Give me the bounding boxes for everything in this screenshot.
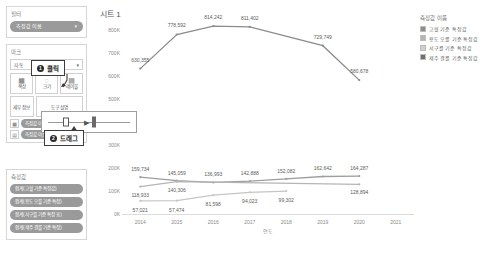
x-axis-title: 연도 [263,227,273,234]
x-axis-tick: 2016 [208,219,219,225]
data-label: 140,306 [168,187,186,193]
data-label: 162,642 [314,165,332,171]
legend-swatch [420,45,426,51]
tableau-worksheet: 필터 측정값 이름 ▾ 마크 자동 ▾ ▦ 색상 ◌ 크기 [0,0,504,277]
size-slider-track[interactable]: ▶ [48,122,130,123]
path-icon: ▤ [10,130,19,139]
size-slider-max-marker [92,117,96,128]
callout-number: 1 [37,65,44,72]
data-point [358,79,360,81]
legend-label: 고혈 기준 특정값 [429,25,467,32]
filter-pill-measure-names[interactable]: 측정값 이름 ▾ [10,21,83,32]
measure-pill[interactable]: 합계(고혈 기준 특정값) [10,184,83,194]
marks-color-button[interactable]: ▦ 색상 [10,73,33,94]
legend: 측정값 이름 고혈 기준 특정값 용도 오를 기준 특정값 서구를 기준 특정값… [420,14,500,63]
marks-detail-button[interactable]: 세부 정보 [10,96,34,117]
data-point [285,178,287,180]
plot-canvas: 630,355778,592814,242811,402729,749580,6… [122,18,414,214]
measure-pill[interactable]: 합계(서구를 기준 특정 표) [10,210,83,220]
legend-item[interactable]: 고혈 기준 특정값 [420,25,500,32]
x-axis-tick: 2017 [244,219,255,225]
measures-card: 측정값 합계(고혈 기준 특정값) 합계(용도 오를 기준 특정) 합계(서구를… [6,169,87,240]
data-label: 57,021 [133,207,148,213]
legend-swatch [420,54,426,60]
x-axis-tick: 2018 [281,219,292,225]
legend-item[interactable]: 서구를 기준 특정값 [420,44,500,51]
y-axis-tick: 600K [108,73,120,79]
marks-color-label: 색상 [18,85,26,90]
data-point [212,194,214,196]
x-axis-tick: 2020 [354,219,365,225]
callout-number: 2 [50,135,57,142]
chevron-down-icon: ▾ [74,21,77,32]
x-axis-tick: 2019 [317,219,328,225]
data-point [322,175,324,177]
x-axis-tick: 2015 [171,219,182,225]
detail-icon: ▩ [10,119,19,128]
legend-title: 측정값 이름 [420,14,500,22]
measure-pill[interactable]: 합계(제주 결를 기준 특정) [10,223,83,233]
data-label: 152,082 [277,168,295,174]
data-point [176,181,178,183]
x-axis-line [122,214,414,215]
data-label: 811,402 [241,15,259,21]
data-point [139,68,141,70]
y-axis-tick: 700K [108,50,120,56]
data-label: 145,059 [168,170,186,176]
data-label: 142,888 [241,170,259,176]
data-label: 814,242 [204,14,222,20]
y-axis-tick: 800K [108,27,120,33]
x-axis: 연도 20142015201620172018201920202021 [122,216,414,236]
data-label: 159,734 [131,166,149,172]
measure-pill[interactable]: 합계(용도 오를 기준 특정) [10,197,83,207]
legend-label: 제주 결를 기준 특정값 [429,54,478,61]
data-label: 81,598 [206,201,221,207]
marks-size-button[interactable]: ◌ 크기 [35,73,58,94]
data-point [249,180,251,182]
y-axis-tick: 500K [108,96,120,102]
data-point [358,183,360,185]
filters-card: 필터 측정값 이름 ▾ [6,6,87,38]
legend-label: 서구를 기준 특정값 [429,44,472,51]
callout-text: 드래그 [60,133,78,143]
callout-1-leader [58,74,76,88]
chart-area: 0K100K200K300K400K500K600K700K800K 630,3… [92,18,418,277]
marks-tooltip-label: 도구 설명 [51,104,68,110]
data-label: 57,474 [169,207,184,213]
data-point [285,190,287,192]
data-label: 118,933 [131,192,149,198]
legend-swatch [420,26,426,32]
data-label: 580,678 [350,68,368,74]
y-axis-tick: 100K [108,188,120,194]
data-label: 128,894 [350,189,368,195]
filters-title: 필터 [11,10,83,18]
x-axis-tick: 2014 [135,219,146,225]
data-point [139,200,141,202]
data-point [322,45,324,47]
data-point [249,191,251,193]
data-label: 136,993 [204,171,222,177]
y-axis-tick: 200K [108,165,120,171]
legend-swatch [420,35,426,41]
y-axis-tick: 300K [108,142,120,148]
worksheet-main: 시트 1 0K100K200K300K400K500K600K700K800K … [92,0,504,277]
data-point [139,176,141,178]
chart-lines [122,18,414,214]
legend-item[interactable]: 제주 결를 기준 특정값 [420,54,500,61]
marks-title: 마크 [11,48,83,56]
measures-title: 측정값 [11,173,83,181]
data-point [212,25,214,27]
data-point [139,186,141,188]
marks-size-label: 크기 [43,85,51,90]
legend-label: 용도 오를 기준 특정값 [429,35,478,42]
filter-pill-label: 측정값 이름 [16,21,42,32]
data-label: 99,302 [279,197,294,203]
data-point [249,26,251,28]
legend-item[interactable]: 용도 오를 기준 특정값 [420,35,500,42]
data-label: 630,355 [131,57,149,63]
marks-detail-label: 세부 정보 [13,104,30,110]
marks-type-label: 자동 [14,61,24,68]
arrow-right-icon: ▶ [84,119,89,126]
chevron-down-icon: ▾ [76,62,79,68]
data-point [176,33,178,35]
